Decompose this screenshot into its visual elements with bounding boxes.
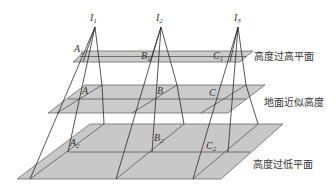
point-label-c: C [209, 87, 216, 98]
plane-label-high: 高度过高平面 [254, 50, 314, 62]
point-label-a: A [81, 85, 89, 96]
camera-label-i1: I1 [89, 12, 97, 25]
multi-height-projection-diagram: I1 I2 I3 A1 B1 C1 A B C A2 B2 C2 高度过高平面 … [0, 0, 336, 190]
plane-label-low: 高度过低平面 [253, 158, 313, 170]
point-label-b: B [157, 85, 163, 96]
plane-label-ground: 地面近似高度 [264, 96, 324, 108]
camera-label-i2: I2 [155, 12, 163, 25]
point-label-a1: A1 [73, 43, 84, 56]
camera-label-i3: I3 [233, 12, 241, 25]
